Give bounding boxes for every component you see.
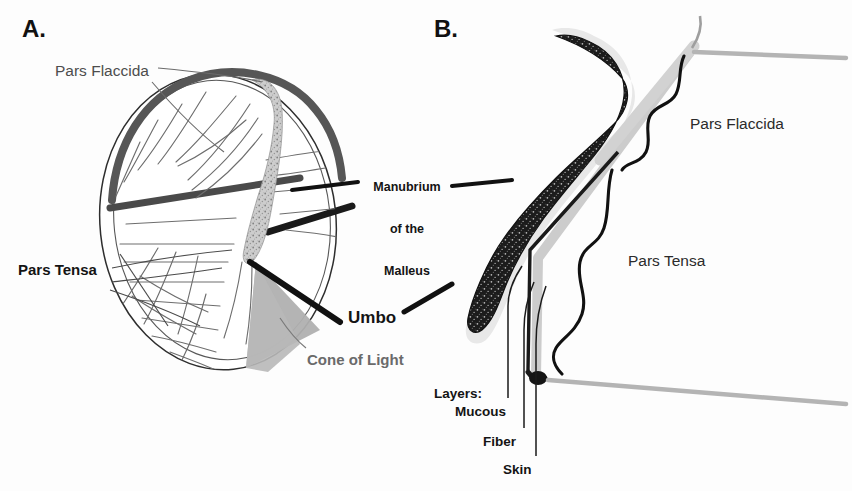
label-pars-tensa-b: Pars Tensa [628,252,705,269]
label-layers-heading: Layers: [434,386,482,401]
label-layer-mucous: Mucous [455,404,506,419]
label-pars-flaccida-a: Pars Flaccida [55,62,149,79]
label-cone-of-light: Cone of Light [307,352,404,369]
manubrium-line-2: of the [364,222,450,236]
label-umbo: Umbo [348,308,396,327]
panel-b-letter: B. [434,16,458,43]
label-layer: A. B. Pars Flaccida Pars Tensa Cone of L… [0,0,852,491]
manubrium-line-3: Malleus [364,264,450,278]
label-layer-fiber: Fiber [483,434,516,449]
figure-root: A. B. Pars Flaccida Pars Tensa Cone of L… [0,0,852,491]
label-manubrium-of-the-malleus: Manubrium of the Malleus [364,152,450,306]
label-layer-skin: Skin [503,462,532,477]
label-pars-tensa-a: Pars Tensa [18,262,97,279]
manubrium-line-1: Manubrium [364,180,450,194]
label-pars-flaccida-b: Pars Flaccida [690,115,784,132]
panel-a-letter: A. [22,16,46,43]
